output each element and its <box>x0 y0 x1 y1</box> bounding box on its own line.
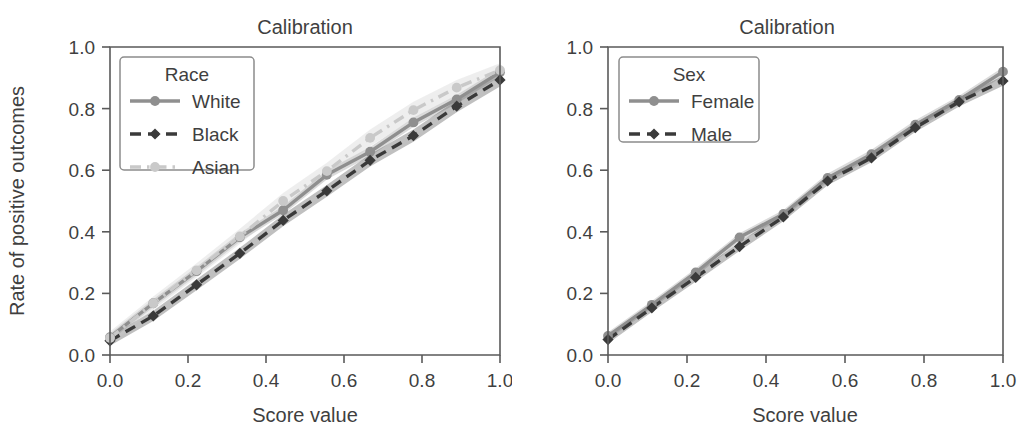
x-tick-label: 0.6 <box>832 370 858 391</box>
y-tick-label: 0.0 <box>69 345 95 366</box>
x-tick-label: 0.8 <box>911 370 937 391</box>
data-point-female <box>735 232 745 242</box>
data-point-asian <box>409 105 419 115</box>
y-axis-label: Rate of positive outcomes <box>6 86 28 316</box>
y-tick-label: 0.2 <box>69 283 95 304</box>
x-tick-label: 1.0 <box>990 370 1016 391</box>
x-tick-label: 0.0 <box>595 370 621 391</box>
sex-plot-svg: Calibration 0.00.20.40.60.81.0 0.00.20.4… <box>505 0 1025 434</box>
race-plot-svg: Calibration 0.00.20.40.60.81.0 0.00.20.4… <box>0 0 512 434</box>
legend-title: Sex <box>673 64 706 85</box>
data-point-asian <box>235 232 245 242</box>
calibration-figure: Calibration 0.00.20.40.60.81.0 0.00.20.4… <box>0 0 1025 434</box>
legend-label-asian: Asian <box>192 157 240 178</box>
y-tick-label: 1.0 <box>69 37 95 58</box>
y-tick-label: 0.0 <box>567 345 593 366</box>
legend-marker-female <box>649 96 659 106</box>
legend-label-female: Female <box>691 91 754 112</box>
data-point-asian <box>148 298 158 308</box>
x-tick-label: 0.4 <box>253 370 280 391</box>
legend-label-male: Male <box>691 124 732 145</box>
x-tick-label: 0.6 <box>331 370 357 391</box>
x-axis-label: Score value <box>752 404 858 426</box>
legend-marker-asian <box>150 162 160 172</box>
data-point-white <box>409 118 419 128</box>
x-tick-label: 0.2 <box>674 370 700 391</box>
x-axis-ticks: 0.00.20.40.60.81.0 <box>595 355 1016 391</box>
y-axis-ticks: 0.00.20.40.60.81.0 <box>567 37 608 366</box>
panel-sex: Calibration 0.00.20.40.60.81.0 0.00.20.4… <box>505 0 1025 434</box>
x-axis-ticks: 0.00.20.40.60.81.0 <box>97 355 512 391</box>
legend-sex[interactable]: Sex FemaleMale <box>619 57 759 145</box>
panel-title: Calibration <box>257 16 353 38</box>
y-tick-label: 1.0 <box>567 37 593 58</box>
panel-race: Calibration 0.00.20.40.60.81.0 0.00.20.4… <box>0 0 512 434</box>
x-tick-label: 0.0 <box>97 370 123 391</box>
legend-marker-white <box>150 96 160 106</box>
data-point-asian <box>192 265 202 275</box>
y-tick-label: 0.4 <box>567 222 594 243</box>
data-point-asian <box>365 133 375 143</box>
x-tick-label: 0.8 <box>409 370 435 391</box>
data-point-asian <box>452 83 462 93</box>
y-tick-label: 0.6 <box>69 160 95 181</box>
y-tick-label: 0.2 <box>567 283 593 304</box>
y-tick-label: 0.4 <box>69 222 96 243</box>
x-tick-label: 0.2 <box>175 370 201 391</box>
legend-label-black: Black <box>192 124 239 145</box>
legend-race[interactable]: Race WhiteBlackAsian <box>120 57 254 178</box>
y-tick-label: 0.6 <box>567 160 593 181</box>
panel-title: Calibration <box>739 16 835 38</box>
data-point-white <box>278 205 288 215</box>
x-axis-label: Score value <box>252 404 358 426</box>
legend-label-white: White <box>192 91 241 112</box>
x-tick-label: 0.4 <box>753 370 780 391</box>
y-axis-ticks: 0.00.20.40.60.81.0 <box>69 37 110 366</box>
y-tick-label: 0.8 <box>567 99 593 120</box>
data-point-asian <box>322 166 332 176</box>
y-tick-label: 0.8 <box>69 99 95 120</box>
legend-title: Race <box>165 64 209 85</box>
data-point-asian <box>278 196 288 206</box>
